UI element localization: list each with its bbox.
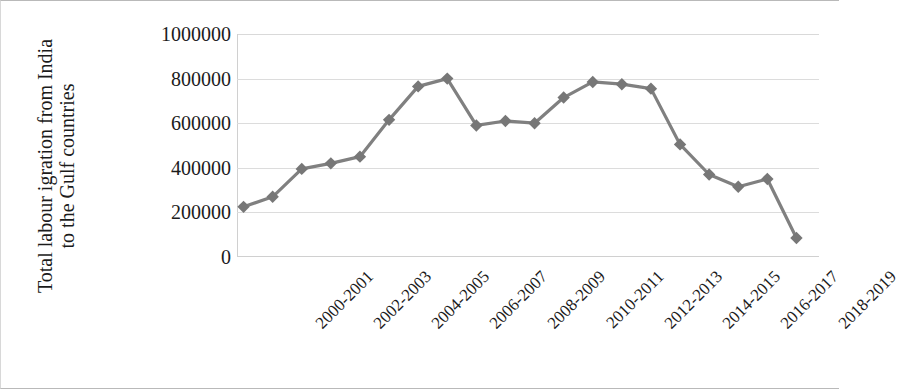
data-point-marker [325, 157, 337, 169]
y-axis-tick-label: 200000 [109, 201, 231, 224]
x-axis-tick-label: 2016-2017 [777, 267, 843, 333]
y-axis-title: Total labour igration from India to the … [15, 37, 97, 295]
line-series [237, 34, 819, 257]
y-axis-tick-label: 800000 [109, 67, 231, 90]
data-point-marker [645, 82, 657, 94]
data-point-marker [499, 115, 511, 127]
data-point-marker [761, 173, 773, 185]
data-point-marker [790, 232, 802, 244]
data-point-marker [732, 181, 744, 193]
plot-area [237, 34, 819, 257]
y-axis-tick-label: 0 [109, 246, 231, 269]
x-axis-tick-label: 2014-2015 [719, 267, 785, 333]
x-axis-tick-label: 2004-2005 [428, 267, 494, 333]
data-point-marker [237, 201, 249, 213]
y-axis-tick-labels: 10000008000006000004000002000000 [109, 1, 231, 389]
x-axis-tick-label: 2008-2009 [544, 267, 610, 333]
series-line [244, 79, 797, 238]
y-axis-tick-label: 1000000 [109, 23, 231, 46]
x-axis-tick-label: 2010-2011 [602, 267, 668, 333]
y-axis-tick-label: 600000 [109, 112, 231, 135]
x-axis-tick-label: 2012-2013 [660, 267, 726, 333]
data-point-marker [616, 78, 628, 90]
y-axis-tick-label: 400000 [109, 156, 231, 179]
x-axis-tick-label: 2000-2001 [311, 267, 377, 333]
x-axis-tick-label: 2018-2019 [835, 267, 900, 333]
x-axis-tick-label: 2002-2003 [369, 267, 435, 333]
data-point-marker [587, 76, 599, 88]
x-axis-tick-labels: 2000-20012002-20032004-20052006-20072008… [237, 259, 837, 379]
x-axis-tick-label: 2006-2007 [486, 267, 552, 333]
